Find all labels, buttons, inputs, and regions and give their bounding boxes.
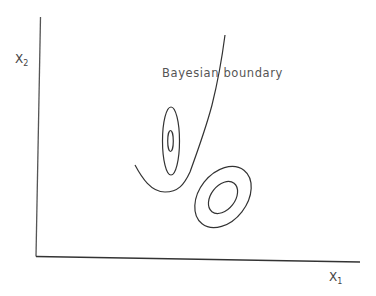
x-axis: [36, 257, 360, 263]
x-axis-label-subscript: 1: [337, 277, 342, 286]
class-1-outer-contour: [163, 107, 180, 175]
class-2-inner-contour: [202, 176, 243, 219]
y-axis-label-text: X: [15, 52, 23, 66]
x-axis-label-text: X: [329, 270, 337, 284]
class-2-outer-contour: [183, 155, 263, 238]
class-1-inner-contour: [168, 131, 174, 152]
bayesian-boundary-curve: [135, 35, 225, 192]
y-axis-label-subscript: 2: [23, 59, 28, 68]
bayesian-boundary-label: Bayesian boundary: [162, 66, 283, 80]
y-axis: [36, 17, 41, 257]
diagram-canvas: [0, 0, 376, 296]
y-axis-label: X2: [15, 52, 28, 68]
x-axis-label: X1: [329, 270, 342, 286]
